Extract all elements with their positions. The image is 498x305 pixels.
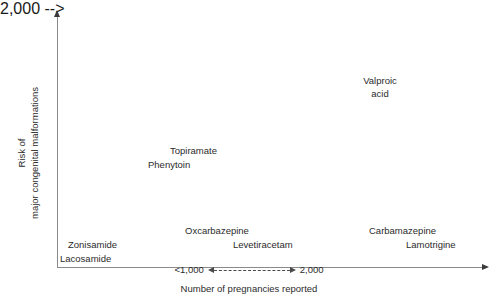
x-axis-title: Number of pregnancies reported	[0, 283, 498, 294]
x-axis-range-annotation: <1,0002,000	[0, 264, 498, 275]
data-label-topiramate: Topiramate	[170, 144, 217, 157]
arrow-right-head-icon	[290, 267, 296, 273]
risk-vs-pregnancies-scatter-figure: Risk ofmajor congenital malformations Va…	[0, 0, 498, 305]
y-axis-arrow-icon	[54, 10, 60, 17]
data-label-levetiracetam: Levetiracetam	[233, 238, 293, 251]
y-axis-title: Risk ofmajor congenital malformations	[15, 53, 41, 253]
dashed-connector-line	[214, 270, 290, 271]
x-axis-range-high-label: 2,000	[300, 264, 324, 275]
data-label-oxcarbazepine: Oxcarbazepine	[185, 224, 249, 237]
x-axis-range-low-label: <1,000	[174, 264, 203, 275]
data-label-valproic-acid: Valproic acid	[352, 74, 408, 100]
data-label-lamotrigine: Lamotrigine	[406, 238, 456, 251]
data-label-phenytoin: Phenytoin	[148, 158, 190, 171]
data-label-zonisamide: Zonisamide	[68, 238, 117, 251]
x-axis-range-double-arrow-icon	[208, 266, 296, 275]
y-axis-title-line1: Risk of	[16, 138, 27, 167]
y-axis-line	[57, 16, 58, 268]
y-axis-title-line2: major congenital malformations	[29, 87, 40, 219]
data-label-carbamazepine: Carbamazepine	[369, 224, 436, 237]
